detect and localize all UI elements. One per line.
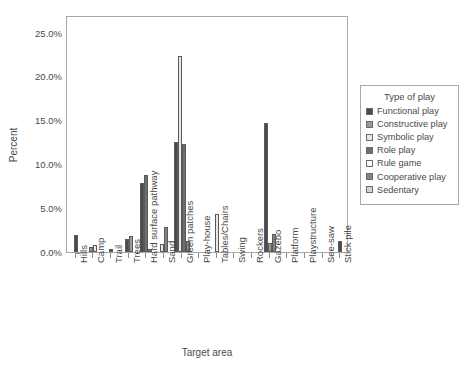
x-tick-label: See-saw [326, 226, 336, 263]
legend-swatch-icon [366, 134, 373, 141]
bar-group [120, 17, 138, 252]
x-tick-label: Camp [96, 238, 106, 263]
y-tick-label: 25.0% [16, 29, 62, 39]
x-tick-mark [110, 253, 111, 258]
bar-group [279, 17, 297, 252]
legend-swatch-icon [366, 173, 373, 180]
x-tick-mark [339, 253, 340, 258]
x-tick-mark [198, 253, 199, 258]
x-tick-label: Hills [79, 245, 89, 263]
y-axis-ticks: 0.0%5.0%10.0%15.0%20.0%25.0% [14, 0, 62, 376]
x-tick-mark [286, 253, 287, 258]
x-tick-mark [75, 253, 76, 258]
x-tick-label: Platform [290, 228, 300, 263]
y-tick-label: 20.0% [16, 72, 62, 82]
x-axis-labels: HillsCampTrailTreesHard surface pathwayS… [66, 259, 348, 349]
x-axis-title: Target area [66, 347, 348, 358]
legend-item[interactable]: Symbolic play [366, 132, 454, 142]
legend-item[interactable]: Constructive play [366, 119, 454, 129]
x-tick-mark [92, 253, 93, 258]
y-tick-label: 10.0% [16, 160, 62, 170]
x-tick-label: Trees [132, 239, 142, 263]
x-tick-mark [128, 253, 129, 258]
x-tick-mark [304, 253, 305, 258]
legend-item-label: Functional play [377, 106, 439, 116]
bar-group [102, 17, 120, 252]
y-tick-label: 0.0% [16, 248, 62, 258]
legend-item-label: Symbolic play [377, 132, 434, 142]
y-tick-label: 5.0% [16, 204, 62, 214]
legend-item[interactable]: Functional play [366, 106, 454, 116]
x-tick-mark [251, 253, 252, 258]
legend-item-label: Cooperative play [377, 172, 446, 182]
bar-chart-figure: Percent 0.0%5.0%10.0%15.0%20.0%25.0% Hil… [0, 0, 464, 376]
legend-items: Functional playConstructive playSymbolic… [365, 106, 454, 195]
x-tick-label: Playstructure [308, 208, 318, 263]
x-tick-mark [233, 253, 234, 258]
legend-swatch-icon [366, 108, 373, 115]
x-tick-mark [216, 253, 217, 258]
legend-swatch-icon [366, 147, 373, 154]
x-tick-label: Green patches [185, 201, 195, 263]
legend: Type of play Functional playConstructive… [360, 85, 459, 205]
legend-item[interactable]: Role play [366, 145, 454, 155]
legend-item-label: Constructive play [377, 119, 447, 129]
legend-item[interactable]: Sedentary [366, 185, 454, 195]
x-tick-label: Rockers [255, 228, 265, 263]
legend-swatch-icon [366, 186, 373, 193]
x-tick-mark [181, 253, 182, 258]
x-tick-mark [163, 253, 164, 258]
legend-item-label: Role play [377, 145, 415, 155]
legend-item-label: Sedentary [377, 185, 419, 195]
bar-group [261, 17, 279, 252]
x-tick-label: Tables/Chairs [220, 205, 230, 263]
legend-swatch-icon [366, 160, 373, 167]
legend-item[interactable]: Rule game [366, 158, 454, 168]
legend-swatch-icon [366, 121, 373, 128]
x-tick-label: Gazebo [273, 230, 283, 263]
x-tick-label: Sand [167, 241, 177, 263]
bar-group [331, 17, 349, 252]
x-tick-mark [269, 253, 270, 258]
legend-item-label: Rule game [377, 158, 421, 168]
x-tick-mark [145, 253, 146, 258]
bar-group [67, 17, 85, 252]
bar-group [85, 17, 103, 252]
legend-title: Type of play [365, 91, 454, 102]
x-tick-mark [322, 253, 323, 258]
x-tick-label: Swing [237, 237, 247, 263]
legend-item[interactable]: Cooperative play [366, 172, 454, 182]
x-tick-label: Play-house [202, 215, 212, 263]
x-tick-label: Stick pile [343, 225, 353, 263]
x-tick-label: Trail [114, 245, 124, 263]
x-tick-label: Hard surface pathway [149, 171, 159, 263]
bar-group [243, 17, 261, 252]
y-tick-label: 15.0% [16, 116, 62, 126]
